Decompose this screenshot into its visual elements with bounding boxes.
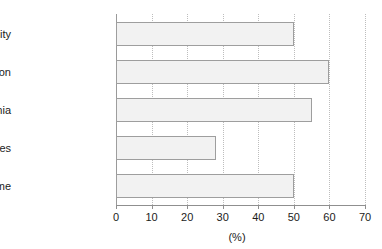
category-label-hypertension: Hypertension <box>0 66 11 78</box>
tickmark-60 <box>329 205 330 209</box>
tickmark-70 <box>365 205 366 209</box>
x-axis-title: (%) <box>0 231 382 243</box>
tickmark-10 <box>152 205 153 209</box>
category-label-metabolic-syndrome: Metabolic syndrome <box>0 180 11 192</box>
x-tick-label-70: 70 <box>345 211 382 223</box>
tickmark-30 <box>223 205 224 209</box>
gridline-70 <box>365 14 366 205</box>
tickmark-20 <box>187 205 188 209</box>
plot-area <box>116 14 365 205</box>
x-tick-label-30: 30 <box>203 211 243 223</box>
bar-chart: ObesityHypertensionDyslipidemiaType 2 di… <box>0 0 382 249</box>
x-axis-title-text: (%) <box>228 231 245 243</box>
bar-obesity <box>116 22 294 46</box>
tickmark-0 <box>116 205 117 209</box>
x-tick-label-50: 50 <box>274 211 314 223</box>
category-label-obesity: Obesity <box>0 28 11 40</box>
x-tick-label-10: 10 <box>132 211 172 223</box>
bar-dyslipidemia <box>116 98 312 122</box>
category-label-dyslipidemia: Dyslipidemia <box>0 104 11 116</box>
bar-hypertension <box>116 60 329 84</box>
bar-metabolic-syndrome <box>116 174 294 198</box>
category-label-type-2-diabetes: Type 2 diabetes <box>0 142 11 154</box>
tickmark-40 <box>258 205 259 209</box>
x-tick-label-0: 0 <box>96 211 136 223</box>
tickmark-50 <box>294 205 295 209</box>
x-tick-label-20: 20 <box>167 211 207 223</box>
bar-type-2-diabetes <box>116 136 216 160</box>
x-tick-label-40: 40 <box>238 211 278 223</box>
x-tick-label-60: 60 <box>309 211 349 223</box>
